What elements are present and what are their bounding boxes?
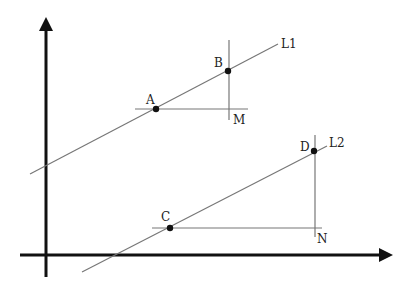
diagram-canvas: L1 B A M L2 D C N [0,0,410,290]
label-n: N [317,232,328,246]
label-b: B [214,56,223,70]
label-l2: L2 [329,136,345,150]
label-c: C [161,210,170,224]
label-a: A [145,93,155,107]
line-l2 [82,146,327,272]
label-d: D [300,140,310,154]
point-c [167,225,173,231]
label-m: M [233,113,245,127]
point-b [225,68,231,74]
label-l1: L1 [281,37,297,51]
point-d [311,148,317,154]
x-axis-arrow-icon [379,248,393,262]
y-axis-arrow-icon [39,17,53,31]
